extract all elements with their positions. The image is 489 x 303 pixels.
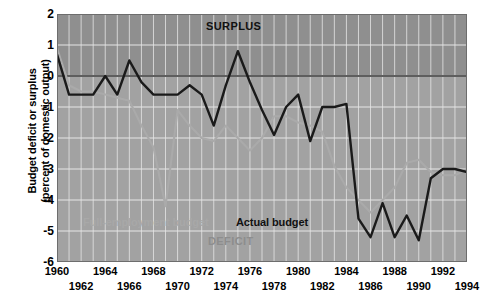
- x-axis-tick-label: 1978: [254, 280, 294, 292]
- x-axis-tick-label: 1986: [351, 280, 391, 292]
- x-axis-tick-label: 1974: [206, 280, 246, 292]
- x-axis-tick-label: 1988: [375, 265, 415, 277]
- x-axis-tick-label: 1960: [37, 265, 77, 277]
- x-axis-tick-label: 1962: [61, 280, 101, 292]
- x-axis-tick-label: 1966: [109, 280, 149, 292]
- x-axis-tick-label: 1972: [182, 265, 222, 277]
- x-axis-tick-label: 1968: [133, 265, 173, 277]
- x-axis-tick-label: 1980: [278, 265, 318, 277]
- x-axis-tick-label: 1994: [447, 280, 487, 292]
- chart-root: Budget deficit or surplus (percent of do…: [0, 0, 489, 303]
- x-axis-tick-label: 1976: [230, 265, 270, 277]
- x-axis-tick-label: 1990: [399, 280, 439, 292]
- x-axis-tick-label: 1984: [326, 265, 366, 277]
- x-axis-tick-labels: 1960196419681972197619801984198819921962…: [0, 0, 489, 303]
- x-axis-tick-label: 1992: [423, 265, 463, 277]
- x-axis-tick-label: 1982: [302, 280, 342, 292]
- x-axis-tick-label: 1964: [85, 265, 125, 277]
- x-axis-tick-label: 1970: [158, 280, 198, 292]
